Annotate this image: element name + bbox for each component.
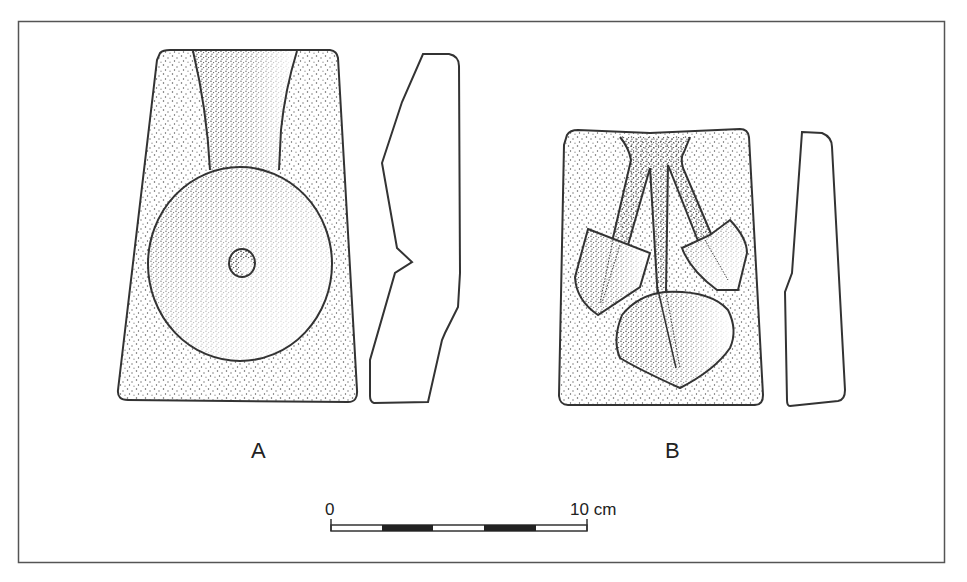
mold-b-profile (785, 132, 845, 406)
mold-a (118, 50, 357, 402)
scale-end-label: 10 cm (570, 500, 616, 520)
scale-start-label: 0 (325, 500, 334, 520)
scale-bar (331, 519, 587, 531)
label-b: B (665, 438, 680, 464)
figure-canvas (0, 0, 967, 582)
label-a: A (251, 438, 266, 464)
mold-b (559, 129, 763, 405)
mold-a-profile (370, 54, 460, 403)
